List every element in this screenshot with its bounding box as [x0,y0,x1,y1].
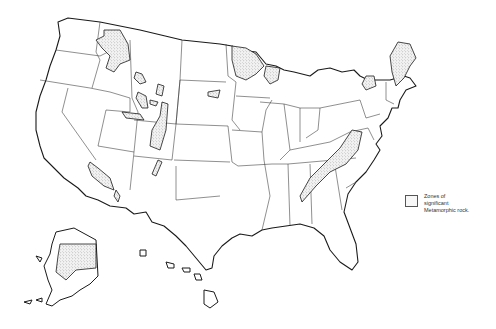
zone-uinta [122,112,144,120]
zone-appalachian-piedmont [300,130,362,202]
zone-new-mexico [152,160,162,176]
alaska [24,228,98,306]
zone-wyoming-2 [156,84,164,96]
zone-minnesota [232,46,264,80]
legend-line-1: Zones of [424,193,469,200]
hawaii [140,250,218,308]
us-map [0,0,496,329]
zone-colorado [150,102,168,150]
zone-arizona [114,190,120,202]
zone-black-hills [208,90,220,98]
zone-new-england [390,42,416,86]
legend-label: Zones of significant Metamorphic rock. [424,193,469,214]
legend-line-3: Metamorphic rock. [424,207,469,214]
zone-idaho-montana [96,30,130,72]
zone-southern-ca [88,162,114,190]
legend: Zones of significant Metamorphic rock. [405,193,469,214]
legend-line-2: significant [424,200,469,207]
stipple-swatch-icon [405,195,418,207]
zone-wisconsin [264,66,280,84]
zone-wyoming-4 [150,100,158,106]
metamorphic-zones [88,30,416,202]
zone-wyoming-1 [134,72,146,84]
zone-wyoming-3 [136,92,148,108]
